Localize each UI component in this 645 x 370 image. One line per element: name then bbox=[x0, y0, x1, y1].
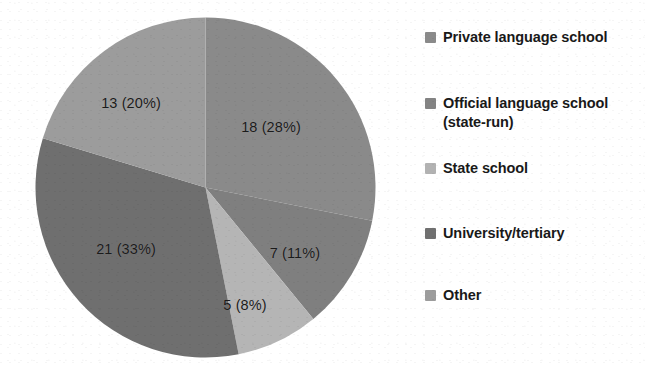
legend-item-label: Other bbox=[443, 286, 481, 305]
legend-item-label: State school bbox=[443, 159, 528, 178]
legend-swatch-icon bbox=[425, 290, 436, 301]
pie-svg bbox=[33, 15, 378, 360]
pie-chart-figure: 18 (28%) 7 (11%) 5 (8%) 21 (33%) 13 (20%… bbox=[0, 0, 645, 370]
legend-swatch-icon bbox=[425, 163, 436, 174]
pie-label-university-tertiary: 21 (33%) bbox=[96, 241, 156, 257]
legend-item-private-language-school[interactable]: Private language school bbox=[425, 28, 640, 47]
pie-label-private-language-school: 18 (28%) bbox=[241, 119, 301, 135]
legend-item-label: University/tertiary bbox=[443, 224, 564, 243]
legend-item-label: Private language school bbox=[443, 28, 608, 47]
pie-label-state-school: 5 (8%) bbox=[223, 297, 266, 313]
legend-swatch-icon bbox=[425, 228, 436, 239]
pie-label-official-language-school: 7 (11%) bbox=[270, 245, 320, 261]
legend-item-university-tertiary[interactable]: University/tertiary bbox=[425, 224, 640, 243]
legend-item-state-school[interactable]: State school bbox=[425, 159, 640, 178]
legend-swatch-icon bbox=[425, 98, 436, 109]
legend-item-official-language-school[interactable]: Official language school (state-run) bbox=[425, 94, 640, 132]
chart-legend: Private language school Official languag… bbox=[425, 18, 640, 318]
pie-slices bbox=[36, 18, 376, 358]
pie-chart-plot-area: 18 (28%) 7 (11%) 5 (8%) 21 (33%) 13 (20%… bbox=[33, 15, 378, 360]
legend-item-other[interactable]: Other bbox=[425, 286, 640, 305]
legend-item-label: Official language school (state-run) bbox=[443, 94, 633, 132]
pie-label-other: 13 (20%) bbox=[101, 95, 161, 111]
legend-swatch-icon bbox=[425, 32, 436, 43]
